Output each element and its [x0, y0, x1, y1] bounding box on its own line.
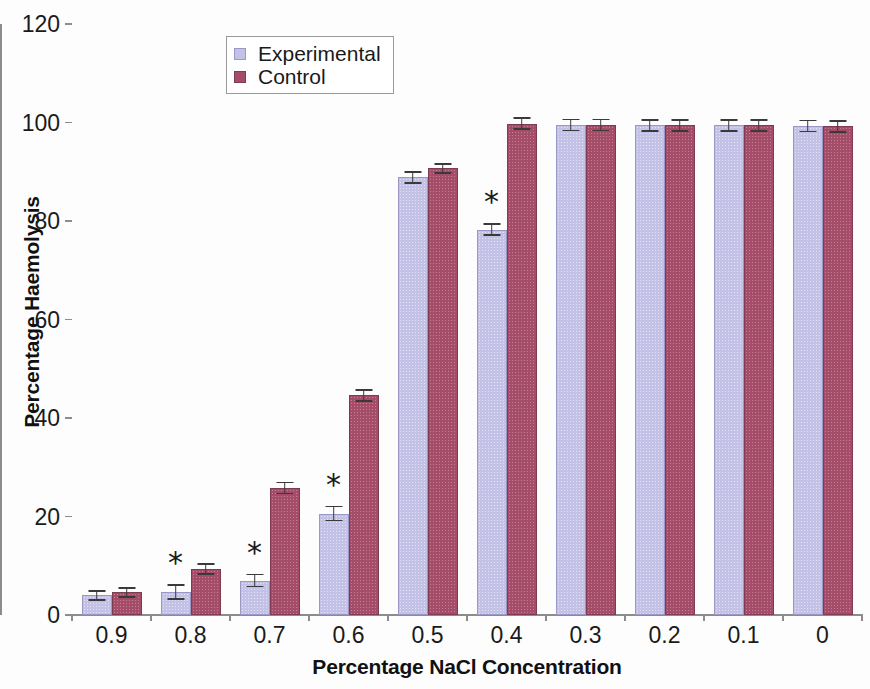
bar-control-0.8 — [191, 569, 221, 615]
legend-item-experimental: Experimental — [234, 42, 381, 65]
bar-control-0.3 — [586, 125, 616, 615]
x-tick-label: 0 — [816, 622, 829, 649]
bar-experimental-0.3 — [556, 125, 586, 615]
x-tick-label: 0.8 — [175, 622, 207, 649]
y-tick-label: 60 — [34, 306, 60, 333]
legend-label-experimental: Experimental — [258, 42, 381, 66]
bar-experimental-0.5 — [398, 177, 428, 615]
chart-legend: ExperimentalControl — [226, 36, 394, 94]
x-tick-mark — [703, 614, 705, 621]
significance-asterisk-0.6: * — [326, 470, 341, 500]
x-tick-mark — [308, 614, 310, 621]
bar-experimental-0.2 — [635, 125, 665, 615]
legend-label-control: Control — [258, 65, 326, 89]
x-axis-title: Percentage NaCl Concentration — [72, 655, 862, 679]
y-tick-label: 80 — [34, 208, 60, 235]
bar-experimental-0.6 — [319, 514, 349, 615]
legend-swatch-control — [234, 71, 246, 83]
haemolysis-bar-chart: Percentage Haemolysis Percentage NaCl Co… — [0, 0, 870, 689]
y-tick-label: 40 — [34, 405, 60, 432]
x-tick-mark — [150, 614, 152, 621]
bar-experimental-0.4 — [477, 230, 507, 615]
x-tick-label: 0.2 — [649, 622, 681, 649]
bar-control-0.7 — [270, 488, 300, 615]
x-tick-label: 0.6 — [333, 622, 365, 649]
bar-control-0 — [823, 126, 853, 615]
significance-asterisk-0.7: * — [247, 538, 262, 568]
x-tick-mark — [229, 614, 231, 621]
bar-experimental-0 — [793, 126, 823, 615]
legend-swatch-experimental — [234, 48, 246, 60]
y-tick-mark — [65, 516, 72, 518]
x-tick-label: 0.7 — [254, 622, 286, 649]
y-tick-label: 120 — [22, 11, 60, 38]
x-tick-mark — [387, 614, 389, 621]
y-tick-mark — [65, 23, 72, 25]
bar-control-0.4 — [507, 124, 537, 616]
y-tick-mark — [65, 319, 72, 321]
x-tick-label: 0.4 — [491, 622, 523, 649]
legend-item-control: Control — [234, 65, 381, 88]
x-tick-mark — [466, 614, 468, 621]
x-tick-mark — [782, 614, 784, 621]
x-tick-label: 0.1 — [728, 622, 760, 649]
plot-area: **** — [72, 24, 862, 615]
y-tick-label: 0 — [47, 602, 60, 629]
bar-experimental-0.1 — [714, 125, 744, 615]
y-tick-mark — [65, 220, 72, 222]
significance-asterisk-0.8: * — [168, 548, 183, 578]
y-tick-mark — [65, 417, 72, 419]
x-tick-mark — [71, 614, 73, 621]
bar-control-0.6 — [349, 395, 379, 615]
x-tick-label: 0.5 — [412, 622, 444, 649]
x-tick-mark — [861, 614, 863, 621]
x-tick-label: 0.9 — [96, 622, 128, 649]
x-tick-label: 0.3 — [570, 622, 602, 649]
bar-control-0.1 — [744, 125, 774, 615]
significance-asterisk-0.4: * — [484, 187, 499, 217]
x-tick-mark — [545, 614, 547, 621]
bar-control-0.5 — [428, 168, 458, 615]
y-axis-line — [0, 24, 2, 615]
x-tick-mark — [624, 614, 626, 621]
y-tick-label: 100 — [22, 109, 60, 136]
y-tick-label: 20 — [34, 503, 60, 530]
bar-control-0.2 — [665, 125, 695, 615]
y-tick-mark — [65, 122, 72, 124]
